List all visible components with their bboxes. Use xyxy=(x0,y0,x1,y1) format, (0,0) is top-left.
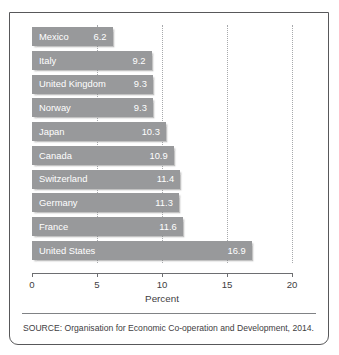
bar-value-label: 9.2 xyxy=(133,56,146,65)
x-axis-tick xyxy=(32,273,33,277)
bar-row[interactable]: United States16.9 xyxy=(32,241,314,263)
bar-row[interactable]: Japan10.3 xyxy=(32,122,314,144)
bar[interactable]: United States16.9 xyxy=(32,241,252,260)
source-note: SOURCE: Organisation for Economic Co-ope… xyxy=(23,322,315,334)
chart-figure: Mexico6.2Italy9.2United Kingdom9.3Norway… xyxy=(9,12,329,345)
x-axis-tick xyxy=(162,273,163,277)
bar-value-label: 10.9 xyxy=(149,151,167,160)
bar-value-label: 11.4 xyxy=(157,174,175,183)
bar-row[interactable]: United Kingdom9.3 xyxy=(32,75,314,97)
bar[interactable]: Switzerland11.4 xyxy=(32,170,180,189)
bar-value-label: 11.3 xyxy=(155,198,173,207)
bar-category-label: United Kingdom xyxy=(39,79,106,88)
bar-value-label: 11.6 xyxy=(159,222,177,231)
bar-series: Mexico6.2Italy9.2United Kingdom9.3Norway… xyxy=(32,27,314,265)
bar-row[interactable]: Norway9.3 xyxy=(32,98,314,120)
bar-row[interactable]: Italy9.2 xyxy=(32,51,314,73)
bar[interactable]: Italy9.2 xyxy=(32,51,152,70)
x-axis-tick-label: 20 xyxy=(287,279,298,290)
bar-row[interactable]: Switzerland11.4 xyxy=(32,170,314,192)
x-axis: 05101520 xyxy=(32,273,292,274)
x-axis-tick xyxy=(227,273,228,277)
bar-row[interactable]: Germany11.3 xyxy=(32,193,314,215)
bar[interactable]: Canada10.9 xyxy=(32,146,174,165)
bar-category-label: Germany xyxy=(39,198,78,207)
bar-category-label: Norway xyxy=(39,103,71,112)
bar[interactable]: Norway9.3 xyxy=(32,98,153,117)
plot-area: Mexico6.2Italy9.2United Kingdom9.3Norway… xyxy=(10,13,328,275)
bar[interactable]: Mexico6.2 xyxy=(32,27,113,46)
bar-value-label: 16.9 xyxy=(227,246,245,255)
x-axis-tick xyxy=(292,273,293,277)
bar-value-label: 6.2 xyxy=(94,32,107,41)
x-axis-tick-label: 15 xyxy=(222,279,233,290)
bar-row[interactable]: Mexico6.2 xyxy=(32,27,314,49)
source-divider xyxy=(22,313,316,314)
x-axis-tick-label: 10 xyxy=(157,279,168,290)
bar[interactable]: United Kingdom9.3 xyxy=(32,75,153,94)
bar[interactable]: Japan10.3 xyxy=(32,122,166,141)
bar-category-label: Switzerland xyxy=(39,174,87,183)
bar-category-label: United States xyxy=(39,246,95,255)
bar-category-label: Mexico xyxy=(39,32,69,41)
bar-category-label: Canada xyxy=(39,151,72,160)
x-axis-tick-label: 5 xyxy=(94,279,99,290)
bar[interactable]: Germany11.3 xyxy=(32,193,179,212)
bar[interactable]: France11.6 xyxy=(32,217,183,236)
x-axis-title: Percent xyxy=(32,293,292,304)
bar-value-label: 9.3 xyxy=(134,103,147,112)
bar-value-label: 10.3 xyxy=(142,127,160,136)
bar-value-label: 9.3 xyxy=(134,79,147,88)
bar-category-label: Japan xyxy=(39,127,65,136)
bar-row[interactable]: Canada10.9 xyxy=(32,146,314,168)
bar-category-label: France xyxy=(39,222,68,231)
x-axis-tick-label: 0 xyxy=(29,279,34,290)
bar-category-label: Italy xyxy=(39,56,56,65)
bar-row[interactable]: France11.6 xyxy=(32,217,314,239)
x-axis-tick xyxy=(97,273,98,277)
